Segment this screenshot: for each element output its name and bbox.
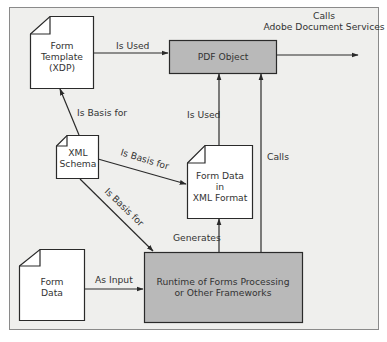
node-label-line: in	[216, 181, 225, 192]
diagram-canvas: Form Template (XDP) PDF Object XML Schem…	[0, 0, 387, 342]
edge-label-calls: Calls	[313, 10, 335, 21]
edge-label-adobe-document-services: Adobe Document Services	[263, 21, 384, 32]
edge-label-calls-runtime: Calls	[267, 151, 289, 162]
node-label-line: XML Format	[193, 192, 248, 203]
node-label-line: Schema	[60, 158, 97, 169]
edge-label-is-used-template: Is Used	[116, 40, 149, 51]
node-label-line: Form Data	[196, 170, 244, 181]
edge-label-as-input: As Input	[95, 274, 133, 285]
node-label-line: PDF Object	[198, 51, 249, 62]
node-label-line: Template	[40, 51, 83, 62]
node-form-template: Form Template (XDP)	[31, 17, 94, 89]
node-label-line: Runtime of Forms Processing	[157, 276, 290, 287]
node-label-line: Form	[40, 276, 63, 287]
node-label-line: or Other Frameworks	[175, 287, 272, 298]
node-form-data-xml: Form Data in XML Format	[188, 146, 253, 219]
edge-label-generates: Generates	[173, 232, 221, 243]
node-label-line: Data	[41, 287, 63, 298]
node-label-line: XML	[68, 147, 88, 158]
node-label-line: (XDP)	[49, 62, 75, 73]
edge-label-is-used-formdata: Is Used	[187, 109, 220, 120]
node-xml-schema: XML Schema	[57, 136, 99, 179]
edge-label-is-basis-for-template: Is Basis for	[77, 107, 127, 118]
node-label-line: Form	[50, 40, 73, 51]
node-runtime: Runtime of Forms Processing or Other Fra…	[145, 253, 303, 323]
node-form-data: Form Data	[20, 250, 85, 321]
node-pdf-object: PDF Object	[170, 41, 277, 74]
